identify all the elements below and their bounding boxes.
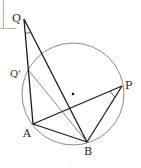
label-b: B bbox=[84, 145, 92, 158]
label-p: P bbox=[125, 79, 133, 92]
label-q: Q bbox=[12, 12, 21, 25]
label-a: A bbox=[22, 127, 32, 140]
center-dot bbox=[72, 93, 75, 96]
angle-mark-q bbox=[25, 32, 31, 33]
label-q-prime: Q' bbox=[10, 68, 21, 79]
speck bbox=[70, 162, 71, 163]
geometry-diagram: Q Q' P A B bbox=[0, 0, 141, 168]
angle-mark-p bbox=[110, 91, 115, 97]
